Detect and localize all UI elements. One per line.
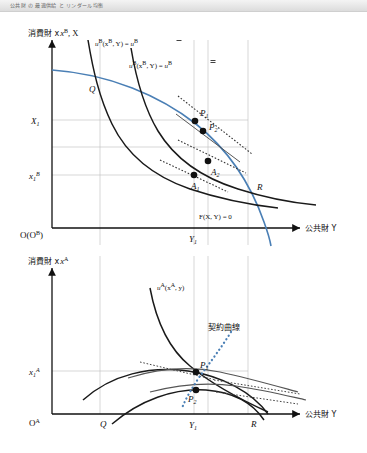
reflected-curve-gray-1 <box>128 369 298 392</box>
upper-y-axis-label: 消費財 xxB, X <box>28 28 78 38</box>
upper-x-axis-label: 公共財 Y <box>305 223 337 233</box>
upper-point-label-R: R <box>256 182 263 192</box>
upper-ppf-label: F(X, Y) = 0 <box>199 213 232 221</box>
economics-figure: 消費財 xxB, X 公共財 Y O(OB) X1 x1B Y1 uB(xB, … <box>0 0 367 453</box>
tangent-line-P1-dotted <box>178 96 252 154</box>
indifference-curve-uB-high <box>88 40 278 208</box>
upper-point-label-A2: A2 <box>210 167 220 178</box>
upper-y-tick-X1: X1 <box>30 116 40 127</box>
upper-y-tick-x1B: x1B <box>28 171 40 182</box>
upper-point-label-P1: P1 <box>199 108 209 119</box>
upper-curve-label-uB-high: uB(xB, Y) = uB <box>95 38 138 48</box>
lower-x-axis-label: 公共財 Y <box>305 409 337 419</box>
production-possibility-frontier-curve <box>52 70 271 246</box>
upper-point-label-A1: A1 <box>190 181 200 192</box>
upper-point-label-P2: P2 <box>208 122 218 133</box>
lower-y-axis-label: 消費財 xxA <box>28 256 69 266</box>
upper-x-tick-Y1: Y1 <box>189 234 197 245</box>
upper-point-label-Q: Q <box>89 84 96 94</box>
upper-panel: 消費財 xxB, X 公共財 Y O(OB) X1 x1B Y1 uB(xB, … <box>20 28 337 246</box>
lower-point-label-R: R <box>250 419 257 429</box>
point-A1-marker <box>191 172 198 179</box>
point-P2-marker <box>200 128 207 135</box>
point-P1-marker <box>192 118 199 125</box>
lower-curve-label-uA: uA(xA, y) <box>157 282 185 292</box>
lower-point-label-P2: P2 <box>187 394 197 405</box>
lower-y-tick-x1A: x1A <box>28 367 40 378</box>
lower-origin-label: OA <box>29 418 41 428</box>
lower-point-P1-marker <box>193 369 200 376</box>
upper-origin-label: O(OB) <box>20 230 43 240</box>
upper-y-axis-label-main: 消費財 x <box>28 28 60 38</box>
lower-point-P2-marker <box>193 387 200 394</box>
lower-panel: 消費財 xxA 公共財 Y OA x1A Y1 uA(xA, y) 契約曲線 P… <box>28 256 337 431</box>
lower-point-label-Q: Q <box>100 419 107 429</box>
point-A2-marker <box>205 158 212 165</box>
contract-curve-label: 契約曲線 <box>208 322 240 332</box>
lower-point-label-P1: P1 <box>199 360 209 371</box>
figure-canvas: 消費財 xxB, X 公共財 Y O(OB) X1 x1B Y1 uB(xB, … <box>0 0 367 453</box>
indifference-curve-uB-low <box>131 48 316 205</box>
lower-x-tick-Y1: Y1 <box>189 420 197 431</box>
